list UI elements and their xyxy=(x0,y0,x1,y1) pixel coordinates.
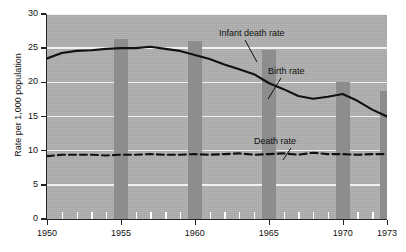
x-tick-label-1970: 1970 xyxy=(333,228,353,238)
series-lines xyxy=(47,14,387,219)
x-tick-label-1960: 1960 xyxy=(185,228,205,238)
x-minor-tick-1953 xyxy=(91,212,92,219)
birth-rate-line xyxy=(47,47,387,117)
y-tick-label-10: 10 xyxy=(20,146,38,155)
x-minor-tick-1971 xyxy=(357,212,358,219)
x-minor-tick-1954 xyxy=(106,212,107,219)
x-minor-tick-1958 xyxy=(165,212,166,219)
plot-area xyxy=(47,14,387,219)
annotation-birth-rate: Birth rate xyxy=(268,66,305,76)
x-minor-tick-1956 xyxy=(136,212,137,219)
y-tick-label-30: 30 xyxy=(20,9,38,18)
x-tick-1960 xyxy=(195,220,196,225)
x-minor-tick-1959 xyxy=(180,212,181,219)
x-minor-tick-1951 xyxy=(62,212,63,219)
y-tick-label-5: 5 xyxy=(20,180,38,189)
x-minor-tick-1952 xyxy=(77,212,78,219)
y-tick-15 xyxy=(41,116,46,117)
annotation-death-rate: Death rate xyxy=(254,136,296,146)
x-minor-tick-1957 xyxy=(150,212,151,219)
x-tick-1973 xyxy=(387,220,388,225)
death-rate-line xyxy=(47,153,387,156)
y-axis-line xyxy=(46,14,47,220)
y-tick-30 xyxy=(41,13,46,14)
annotation-infant-death-rate: Infant death rate xyxy=(219,28,285,38)
x-minor-tick-1963 xyxy=(239,212,240,219)
y-axis-title: Rate per 1,000 population xyxy=(13,30,23,180)
x-tick-1950 xyxy=(47,220,48,225)
x-minor-tick-1962 xyxy=(224,212,225,219)
y-tick-0 xyxy=(41,218,46,219)
y-tick-label-0: 0 xyxy=(20,214,38,223)
x-tick-label-1973: 1973 xyxy=(377,228,397,238)
x-tick-label-1950: 1950 xyxy=(37,228,57,238)
x-tick-1955 xyxy=(121,220,122,225)
x-axis-line xyxy=(46,219,387,220)
x-tick-1970 xyxy=(343,220,344,225)
y-tick-label-15: 15 xyxy=(20,112,38,121)
y-tick-label-25: 25 xyxy=(20,43,38,52)
y-tick-20 xyxy=(41,82,46,83)
vital-rates-chart: Rate per 1,000 population 051015202530 1… xyxy=(0,0,406,252)
y-tick-label-20: 20 xyxy=(20,77,38,86)
x-tick-label-1955: 1955 xyxy=(111,228,131,238)
x-minor-tick-1961 xyxy=(210,212,211,219)
y-tick-25 xyxy=(41,47,46,48)
y-tick-10 xyxy=(41,150,46,151)
x-minor-tick-1966 xyxy=(284,212,285,219)
x-minor-tick-1967 xyxy=(298,212,299,219)
x-minor-tick-1968 xyxy=(313,212,314,219)
x-minor-tick-1969 xyxy=(328,212,329,219)
x-tick-label-1965: 1965 xyxy=(259,228,279,238)
y-tick-5 xyxy=(41,184,46,185)
x-tick-1965 xyxy=(269,220,270,225)
x-minor-tick-1964 xyxy=(254,212,255,219)
x-minor-tick-1972 xyxy=(372,212,373,219)
